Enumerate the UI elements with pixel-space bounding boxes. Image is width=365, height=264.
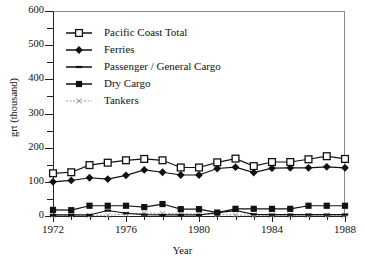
legend-item-passenger-general-cargo[interactable]: Passenger / General Cargo [62, 58, 221, 75]
x-tick-1975 [108, 216, 109, 220]
x-tick-1988 [345, 216, 346, 222]
x-tick-1979 [181, 216, 182, 220]
y-tick-0 [45, 216, 53, 217]
x-tick-label-1976: 1976 [104, 224, 148, 235]
open-square-icon [62, 26, 96, 40]
x-tick-1972 [53, 216, 54, 222]
y-tick-minor [47, 199, 53, 200]
x-tick-1983 [254, 216, 255, 220]
y-tick-600 [45, 11, 53, 12]
y-tick-500 [45, 45, 53, 46]
chart-figure: 0100200300400500600 19721976198019841988… [0, 0, 365, 264]
y-tick-100 [45, 182, 53, 183]
y-tick-300 [45, 114, 53, 115]
x-tick-1977 [144, 216, 145, 220]
legend-label: Pacific Coast Total [96, 27, 187, 38]
x-tick-1984 [272, 216, 273, 222]
y-tick-label-100: 100 [0, 176, 44, 187]
x-tick-1978 [163, 216, 164, 220]
legend-label: Dry Cargo [96, 78, 151, 89]
x-tick-label-1980: 1980 [177, 224, 221, 235]
x-tick-1981 [217, 216, 218, 220]
filled-square-icon [62, 77, 96, 91]
y-tick-minor [47, 28, 53, 29]
y-tick-minor [47, 131, 53, 132]
x-tick-label-1988: 1988 [323, 224, 365, 235]
x-tick-1973 [71, 216, 72, 220]
x-tick-1987 [327, 216, 328, 220]
y-tick-label-0: 0 [0, 210, 44, 221]
y-tick-minor [47, 96, 53, 97]
y-tick-400 [45, 79, 53, 80]
x-axis-title: Year [0, 245, 365, 256]
filled-diamond-icon [62, 43, 96, 57]
y-tick-minor [47, 165, 53, 166]
chart-legend: Pacific Coast TotalFerriesPassenger / Ge… [62, 24, 221, 109]
legend-label: Ferries [96, 44, 135, 55]
legend-item-dry-cargo[interactable]: Dry Cargo [62, 75, 221, 92]
dash-icon [62, 60, 96, 74]
x-tick-label-1984: 1984 [250, 224, 294, 235]
x-tick-label-1972: 1972 [31, 224, 75, 235]
legend-item-ferries[interactable]: Ferries [62, 41, 221, 58]
y-tick-minor [47, 62, 53, 63]
legend-label: Tankers [96, 95, 139, 106]
x-tick-1974 [90, 216, 91, 220]
y-axis-title: grt (thousand) [8, 48, 19, 168]
x-dotted-icon [62, 94, 96, 108]
legend-item-pacific-coast-total[interactable]: Pacific Coast Total [62, 24, 221, 41]
x-tick-1976 [126, 216, 127, 222]
y-tick-200 [45, 148, 53, 149]
legend-item-tankers[interactable]: Tankers [62, 92, 221, 109]
x-tick-1986 [309, 216, 310, 220]
y-tick-label-600: 600 [0, 5, 44, 16]
x-tick-1982 [236, 216, 237, 220]
x-tick-1980 [199, 216, 200, 222]
legend-label: Passenger / General Cargo [96, 61, 221, 72]
x-tick-1985 [290, 216, 291, 220]
